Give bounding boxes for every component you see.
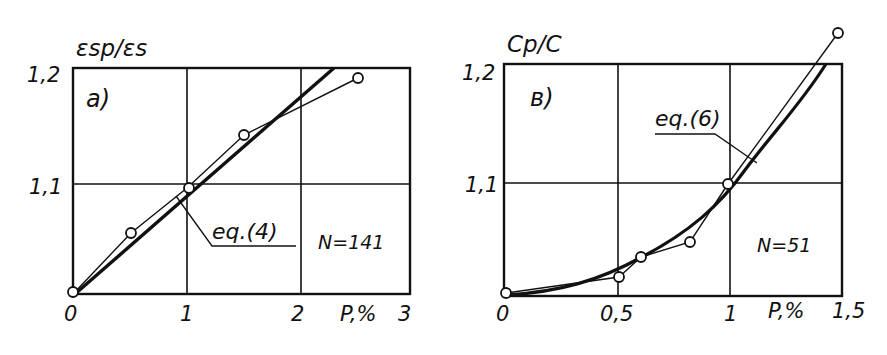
chart-b-eq-leader [655, 134, 757, 163]
chart-b-ytick-1-1: 1,1 [465, 173, 498, 197]
chart-b-ytick-1-2: 1,2 [462, 61, 495, 85]
figure: εsp/εs a) eq.(4) N=141 1,2 1,1 0 1 2 P,%… [0, 0, 887, 355]
chart-b-panel-label: в) [530, 84, 554, 112]
chart-a-ylabel: εsp/εs [76, 35, 147, 61]
chart-a-n-label: N=141 [318, 231, 384, 253]
chart-b-xtick-1: 1 [724, 302, 737, 326]
chart-b-xtick-0-5: 0,5 [600, 302, 633, 326]
data-point [685, 237, 695, 247]
chart-b-markers [501, 28, 843, 298]
chart-a-xtick-3: 3 [398, 302, 411, 326]
chart-a-xtick-2: 2 [291, 302, 304, 326]
data-point [833, 28, 843, 38]
data-point [239, 130, 249, 140]
chart-b-xlabel: P,% [768, 299, 804, 323]
chart-b-n-label: N=51 [757, 234, 811, 256]
chart-a-experimental-line [73, 78, 358, 294]
data-point [68, 287, 78, 297]
chart-b: Cp/C в) eq.(6) N=51 1,2 1,1 0 0,5 1 P,% … [462, 28, 865, 326]
chart-a-xtick-1: 1 [180, 302, 193, 326]
chart-a-eq-label: eq.(4) [212, 219, 278, 244]
chart-b-eq-label: eq.(6) [655, 106, 721, 131]
chart-a-ytick-1-2: 1,2 [27, 63, 60, 87]
chart-a-xtick-0: 0 [64, 302, 77, 326]
chart-a: εsp/εs a) eq.(4) N=141 1,2 1,1 0 1 2 P,%… [27, 35, 411, 326]
chart-b-ylabel: Cp/C [507, 31, 561, 57]
data-point [723, 179, 733, 189]
data-point [353, 73, 363, 83]
data-point [614, 272, 624, 282]
chart-a-frame [73, 68, 410, 294]
chart-a-ytick-1-1: 1,1 [29, 175, 62, 199]
data-point [184, 183, 194, 193]
chart-a-xlabel: P,% [340, 302, 376, 326]
chart-b-frame [504, 64, 842, 296]
data-point [636, 252, 646, 262]
data-point [501, 288, 511, 298]
chart-b-xtick-0: 0 [496, 302, 509, 326]
data-point [126, 228, 136, 238]
chart-a-panel-label: a) [86, 85, 110, 113]
chart-a-eq4-line [75, 68, 334, 294]
chart-b-xtick-1-5: 1,5 [832, 299, 865, 323]
chart-b-eq6-curve [506, 64, 826, 295]
